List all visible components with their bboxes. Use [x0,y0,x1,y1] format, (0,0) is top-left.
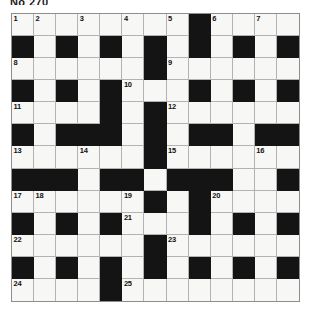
grid-cell[interactable]: 23 [167,235,189,257]
grid-cell[interactable] [211,257,233,279]
grid-cell[interactable] [233,191,255,213]
grid-cell[interactable]: 18 [34,191,56,213]
grid-cell[interactable] [167,213,189,235]
grid-cell[interactable] [78,36,100,58]
grid-cell[interactable] [255,102,277,124]
grid-cell[interactable] [78,235,100,257]
grid-cell[interactable] [56,191,78,213]
grid-cell[interactable]: 21 [122,213,144,235]
grid-cell[interactable] [233,169,255,191]
grid-cell[interactable] [122,58,144,80]
grid-cell[interactable]: 13 [12,146,34,168]
grid-cell[interactable] [34,102,56,124]
grid-cell[interactable] [34,80,56,102]
grid-cell[interactable]: 22 [12,235,34,257]
grid-cell[interactable] [255,169,277,191]
grid-cell[interactable] [211,213,233,235]
grid-cell[interactable]: 16 [255,146,277,168]
grid-cell[interactable] [233,14,255,36]
grid-cell[interactable] [167,36,189,58]
grid-cell[interactable] [277,14,299,36]
grid-cell[interactable]: 19 [122,191,144,213]
grid-cell[interactable] [100,14,122,36]
grid-cell[interactable]: 25 [122,279,144,301]
grid-cell[interactable] [167,124,189,146]
grid-cell[interactable] [78,257,100,279]
grid-cell[interactable] [233,124,255,146]
grid-cell[interactable] [277,191,299,213]
grid-cell[interactable] [233,146,255,168]
grid-cell[interactable] [211,235,233,257]
grid-cell[interactable] [167,257,189,279]
grid-cell[interactable] [122,235,144,257]
grid-cell[interactable] [78,80,100,102]
grid-cell[interactable] [277,146,299,168]
grid-cell[interactable] [122,36,144,58]
grid-cell[interactable] [100,235,122,257]
grid-cell[interactable] [211,58,233,80]
grid-cell[interactable] [233,279,255,301]
grid-cell[interactable] [78,191,100,213]
grid-cell[interactable] [34,36,56,58]
grid-cell[interactable] [255,58,277,80]
grid-cell[interactable]: 12 [167,102,189,124]
grid-cell[interactable] [211,36,233,58]
grid-cell[interactable] [34,124,56,146]
grid-cell[interactable] [78,213,100,235]
grid-cell[interactable] [211,146,233,168]
grid-cell[interactable]: 17 [12,191,34,213]
grid-cell[interactable]: 15 [167,146,189,168]
grid-cell[interactable]: 3 [78,14,100,36]
grid-cell[interactable] [100,58,122,80]
grid-cell[interactable] [255,191,277,213]
grid-cell[interactable] [34,146,56,168]
grid-cell[interactable] [34,279,56,301]
grid-cell[interactable] [277,235,299,257]
grid-cell[interactable]: 2 [34,14,56,36]
grid-cell[interactable] [144,279,166,301]
grid-cell[interactable] [56,146,78,168]
grid-cell[interactable] [100,191,122,213]
grid-cell[interactable]: 4 [122,14,144,36]
grid-cell[interactable] [78,58,100,80]
grid-cell[interactable] [56,235,78,257]
grid-cell[interactable]: 14 [78,146,100,168]
grid-cell[interactable] [167,80,189,102]
grid-cell[interactable] [34,58,56,80]
grid-cell[interactable] [56,58,78,80]
grid-cell[interactable] [277,58,299,80]
grid-cell[interactable]: 6 [211,14,233,36]
grid-cell[interactable] [100,146,122,168]
grid-cell[interactable]: 5 [167,14,189,36]
grid-cell[interactable] [122,257,144,279]
grid-cell[interactable] [255,36,277,58]
grid-cell[interactable]: 24 [12,279,34,301]
grid-cell[interactable] [167,191,189,213]
grid-cell[interactable]: 9 [167,58,189,80]
grid-cell[interactable] [255,257,277,279]
grid-cell[interactable] [255,279,277,301]
grid-cell[interactable] [144,169,166,191]
grid-cell[interactable] [211,279,233,301]
grid-cell[interactable] [78,279,100,301]
grid-cell[interactable] [189,58,211,80]
grid-cell[interactable] [56,14,78,36]
grid-cell[interactable] [167,279,189,301]
grid-cell[interactable] [255,235,277,257]
grid-cell[interactable]: 11 [12,102,34,124]
grid-cell[interactable] [56,102,78,124]
crossword-grid[interactable]: 1234567891011121314151617181920212223242… [11,13,300,302]
grid-cell[interactable] [78,102,100,124]
grid-cell[interactable] [56,279,78,301]
grid-cell[interactable]: 7 [255,14,277,36]
grid-cell[interactable] [34,213,56,235]
grid-cell[interactable] [255,213,277,235]
grid-cell[interactable] [189,279,211,301]
grid-cell[interactable] [122,102,144,124]
grid-cell[interactable] [211,80,233,102]
grid-cell[interactable] [255,80,277,102]
grid-cell[interactable] [122,124,144,146]
grid-cell[interactable] [189,235,211,257]
grid-cell[interactable] [233,58,255,80]
grid-cell[interactable] [122,146,144,168]
